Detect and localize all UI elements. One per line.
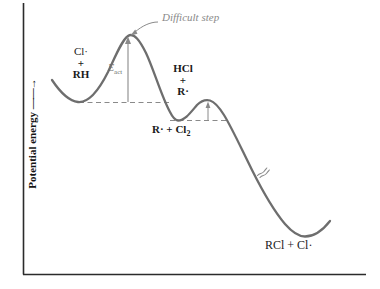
difficult-step-leader-line [135,22,158,32]
label-reactants: Cl· + RH [60,46,102,80]
y-axis-title: Potential energy ——→ [26,49,38,219]
energy-diagram-figure: Potential energy ——→ Difficult step Eact… [0,0,380,289]
label-reactants-plus: + [60,58,102,69]
y-axis-arrow: ——→ [26,79,38,109]
label-intermediate-one-plus: + [161,75,205,86]
label-intermediate-one: HCl + R· [161,63,205,97]
y-axis-title-text: Potential energy [26,112,38,189]
label-reactants-line1: Cl· [60,46,102,58]
curve-break-mark [258,167,270,178]
label-reactants-line2: RH [60,69,102,81]
eact2-arrow-head [206,102,211,109]
eact-arrow-group [125,37,131,103]
difficult-step-leader-group [131,22,159,36]
label-intermediate-one-line1: HCl [161,63,205,75]
difficult-step-annotation: Difficult step [162,12,219,24]
activation-energy-subscript: act [114,68,122,76]
label-intermediate-two-subscript: 2 [186,129,190,138]
eact2-arrow-group [206,102,211,121]
activation-energy-label: Eact [108,63,122,76]
label-intermediate-two-prefix: R· + Cl [152,123,186,135]
label-products: RCl + Cl· [265,239,312,252]
label-intermediate-two: R· + Cl2 [152,124,190,139]
energy-diagram-canvas [0,0,380,289]
label-intermediate-one-line2: R· [161,86,205,98]
